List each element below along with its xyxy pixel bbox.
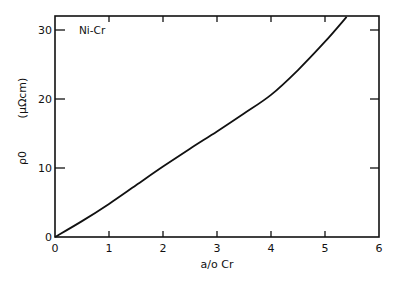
data-curve-ni-cr	[55, 17, 347, 237]
x-tick-label: 6	[376, 242, 383, 255]
plot-border	[55, 16, 379, 237]
y-axis-units: (μΩcm)	[16, 78, 29, 119]
y-axis-label-group: ρ0	[16, 151, 29, 165]
x-tick-label: 1	[106, 242, 113, 255]
tick-labels: 01234560102030	[38, 24, 383, 255]
axis-ticks	[55, 16, 379, 237]
plot-frame	[55, 16, 379, 237]
x-tick-label: 3	[214, 242, 221, 255]
y-tick-label: 0	[45, 231, 52, 244]
chart: 01234560102030 Ni-Cr a/o Cr ρ0 (μΩcm)	[0, 0, 400, 283]
y-tick-label: 30	[38, 24, 52, 37]
y-tick-label: 10	[38, 162, 52, 175]
x-tick-label: 2	[160, 242, 167, 255]
y-axis-symbol: ρ0	[16, 151, 29, 165]
series-annotation: Ni-Cr	[79, 24, 106, 36]
x-axis-label: a/o Cr	[201, 258, 234, 271]
y-axis-units-group: (μΩcm)	[16, 78, 29, 119]
y-tick-label: 20	[38, 93, 52, 106]
x-tick-label: 0	[52, 242, 59, 255]
x-tick-label: 4	[268, 242, 275, 255]
x-tick-label: 5	[322, 242, 329, 255]
